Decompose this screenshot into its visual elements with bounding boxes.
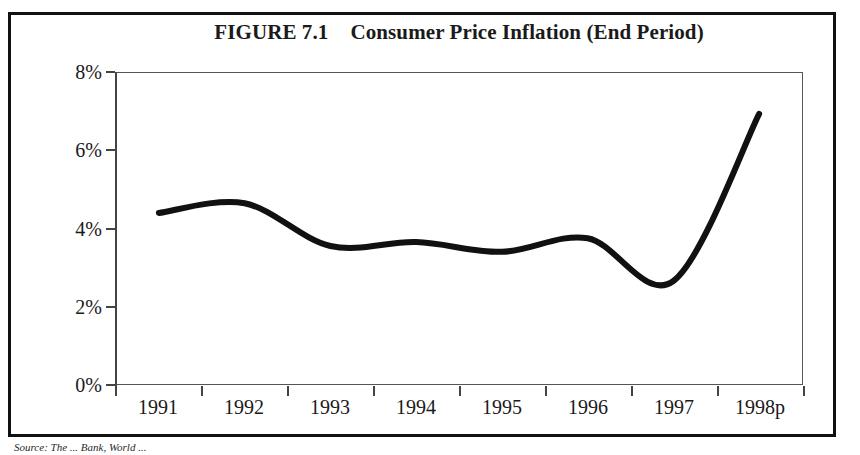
figure-number-label: FIGURE 7.1 [214,20,328,44]
x-axis-tick-label: 1997 [631,396,717,418]
x-axis-tick [287,386,289,396]
y-axis-tick [106,228,115,230]
x-axis-tick [373,386,375,396]
x-axis-tick-label: 1991 [115,396,201,418]
x-axis-labels: 19911992199319941995199619971998p [115,396,803,430]
x-axis-tick [545,386,547,396]
x-axis-tick-label: 1992 [201,396,287,418]
chart-title: FIGURE 7.1Consumer Price Inflation (End … [115,20,803,45]
y-axis-labels: 8%6%4%2%0% [36,0,102,455]
x-axis-tick [201,386,203,396]
x-axis-tick-label: 1994 [373,396,459,418]
x-axis-tick [631,386,633,396]
y-axis-tick [106,384,115,386]
x-axis-tick-label: 1998p [717,396,803,418]
y-axis-tick [106,149,115,151]
x-axis-tick-label: 1993 [287,396,373,418]
figure-root: FIGURE 7.1Consumer Price Inflation (End … [0,0,860,455]
series-line-path [159,114,759,286]
y-axis-tick [106,306,115,308]
y-axis-tick-label: 8% [44,62,102,82]
x-axis-tick [717,386,719,396]
y-axis-tick-label: 4% [44,219,102,239]
y-axis-tick-label: 6% [44,140,102,160]
figure-title-text: Consumer Price Inflation (End Period) [350,20,703,44]
x-axis-tick [459,386,461,396]
y-axis-tick [106,71,115,73]
x-axis-tick [803,386,805,396]
x-axis-tick-label: 1996 [545,396,631,418]
plot-area [115,72,803,385]
y-axis-tick-label: 2% [44,297,102,317]
x-axis-tick-label: 1995 [459,396,545,418]
chart-line-svg [116,73,802,384]
x-axis-tick [115,386,117,396]
y-axis-tick-label: 0% [44,375,102,395]
source-note: Source: The ... Bank, World ... [14,441,146,455]
y-axis-line [115,72,117,386]
